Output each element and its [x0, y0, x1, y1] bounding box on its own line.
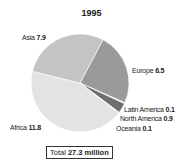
label-north-america: North America 0.9 [120, 115, 173, 122]
label-latin-america: Latin America 0.1 [124, 106, 175, 113]
pie-chart [0, 0, 183, 165]
total-box: Total 27.3 million [46, 146, 113, 159]
label-oceania: Oceania 0.1 [116, 125, 152, 132]
label-asia: Asia 7.9 [22, 34, 46, 41]
pie-slices [31, 34, 129, 132]
label-europe: Europe 6.5 [132, 67, 164, 74]
label-africa: Africa 11.8 [10, 124, 41, 131]
